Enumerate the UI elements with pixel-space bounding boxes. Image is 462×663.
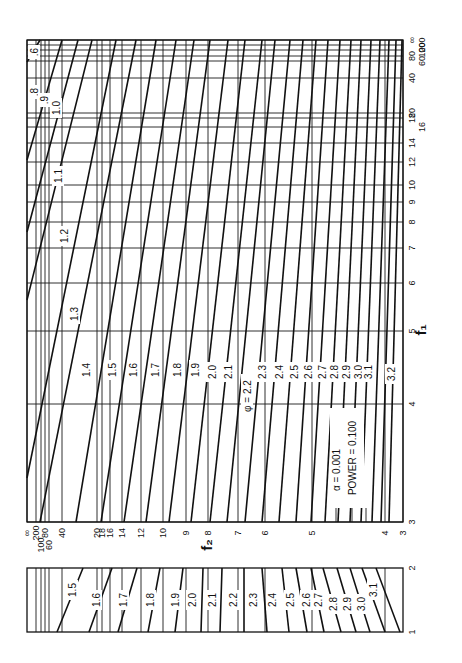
phi-curve-label: 1.0: [51, 101, 62, 115]
phi-curve-label: 2.9: [341, 365, 352, 379]
f1-axis-ticks: ∞2001008060402018161412109876543: [407, 37, 427, 525]
power-label: POWER = 0.100: [347, 420, 358, 495]
f2-axis-ticks: ∞2001008060402018161412109876543: [22, 525, 408, 552]
f1-tick-label: 9: [407, 199, 417, 204]
lower-phi-curve-label: 1.5: [67, 583, 78, 597]
phi-curve-label: 3.1: [363, 365, 374, 379]
phi-curve-label: 1.5: [107, 363, 118, 377]
phi-curve: [389, 40, 402, 522]
f1-tick-label: 18: [407, 113, 417, 123]
f2-tick-label: 4: [380, 530, 390, 535]
lower-tick-label: 1: [407, 629, 417, 634]
f1-tick-label: 100: [417, 42, 427, 57]
phi-curve-label: 2.3: [257, 365, 268, 379]
f1-axis-title: f₁: [412, 324, 429, 335]
f2-tick-label: 9: [181, 530, 191, 535]
f2-tick-label: 5: [307, 530, 317, 535]
phi-curve-label: 1.9: [190, 363, 201, 377]
f1-tick-label: ∞: [407, 37, 417, 43]
lower-phi-curve-label: 2.6: [301, 593, 312, 607]
f1-tick-label: 6: [407, 280, 417, 285]
lower-phi-curve-label: 2.5: [285, 593, 296, 607]
phi-curve-label: 1.8: [172, 363, 183, 377]
phi-curve-label: φ = 2.2: [242, 380, 253, 412]
phi-curve-label: 1.4: [81, 363, 92, 377]
f2-tick-label: 8: [203, 530, 213, 535]
f1-tick-label: 14: [407, 138, 417, 148]
lower-phi-curve-label: 2.7: [313, 593, 324, 607]
f1-tick-label: 16: [417, 122, 427, 132]
lower-phi-curve-label: 2.9: [342, 597, 353, 611]
f1-tick-label: 40: [407, 73, 417, 83]
phi-curve-label: 1.3: [69, 307, 80, 321]
lower-phi-curve-label: 2.0: [187, 593, 198, 607]
lower-phi-curve-label: 1.7: [118, 593, 129, 607]
f2-tick-label: 60: [44, 540, 54, 550]
phi-curve: [381, 40, 396, 522]
alpha-power-annotation: α = 0.001 POWER = 0.100: [330, 408, 366, 522]
f2-tick-label: 12: [136, 528, 146, 538]
f2-tick-label: 7: [233, 530, 243, 535]
lower-phi-curve: [376, 568, 400, 632]
lower-phi-curve-label: 3.1: [368, 583, 379, 597]
phi-curve-label: 1.2: [59, 229, 70, 243]
phi-curve-label: .8: [29, 87, 40, 96]
lower-phi-curve: [220, 568, 222, 632]
phi-curve-label: 2.4: [274, 365, 285, 379]
phi-curve-label: 1.6: [128, 363, 139, 377]
f1-tick-label: 4: [407, 401, 417, 406]
phi-curve: [124, 40, 194, 522]
f1-tick-label: 80: [407, 51, 417, 61]
f2-tick-label: 40: [57, 528, 67, 538]
f1-tick-label: 3: [407, 519, 417, 524]
phi-curve: [372, 40, 389, 522]
lower-phi-curve-label: 3.0: [356, 597, 367, 611]
alpha-label: α = 0.001: [331, 448, 342, 491]
f2-tick-label: 6: [260, 530, 270, 535]
lower-phi-curve-label: 1.9: [170, 593, 181, 607]
f1-tick-label: 60: [417, 56, 427, 66]
lower-panel-phi-curves: 1.51.61.71.81.92.02.12.22.32.42.52.62.72…: [57, 568, 400, 632]
lower-phi-curve-label: 2.1: [207, 593, 218, 607]
lower-phi-curve-label: 1.8: [145, 593, 156, 607]
phi-curve-label: .6: [29, 47, 40, 56]
phi-curve-label: 2.5: [289, 365, 300, 379]
f2-tick-label: 3: [398, 530, 408, 535]
f2-tick-label: 14: [117, 528, 127, 538]
f1-tick-label: 7: [407, 245, 417, 250]
phi-curve-label: .9: [39, 95, 50, 104]
f2-tick-label: 80: [40, 528, 50, 538]
lower-tick-label: 2: [407, 565, 417, 570]
f1-tick-label: 8: [407, 219, 417, 224]
f1-tick-label: 12: [407, 157, 417, 167]
f1-tick-label: 10: [407, 180, 417, 190]
lower-phi-curve-label: 2.4: [267, 593, 278, 607]
lower-phi-curve-label: 2.8: [328, 597, 339, 611]
phi-curve-label: 2.1: [223, 365, 234, 379]
lower-phi-curve-label: 1.6: [91, 593, 102, 607]
phi-curve-label: 1.1: [53, 169, 64, 183]
lower-panel-ticks: 21: [407, 565, 417, 634]
power-chart: .6.8.91.01.11.21.31.41.51.61.71.81.92.02…: [0, 0, 462, 663]
f2-tick-label: 16: [105, 528, 115, 538]
lower-phi-curve-label: 2.2: [228, 593, 239, 607]
phi-curve-label: 3.2: [386, 367, 397, 381]
phi-curve-label: 1.7: [150, 363, 161, 377]
f2-axis-title: f₂: [198, 539, 215, 551]
phi-curve-label: 2.8: [329, 365, 340, 379]
lower-phi-curve: [201, 568, 203, 632]
phi-curve-label: 2.7: [317, 365, 328, 379]
phi-curve-label: 2.6: [303, 365, 314, 379]
lower-phi-curve-label: 2.3: [248, 593, 259, 607]
phi-curve-label: 2.0: [207, 365, 218, 379]
phi-curve: [101, 40, 176, 522]
f2-tick-label: 10: [158, 528, 168, 538]
